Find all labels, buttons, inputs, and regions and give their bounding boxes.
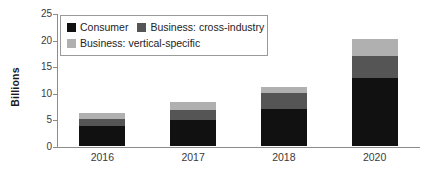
bar-segment-2020-business-cross-industry bbox=[352, 56, 398, 78]
bar-2020 bbox=[352, 39, 398, 146]
y-axis-title-text: Billions bbox=[9, 67, 21, 107]
bar-2016 bbox=[79, 113, 125, 146]
bar-segment-2016-consumer bbox=[79, 126, 125, 146]
stacked-bar-chart: Billions 0510152025 2016201720182020 Con… bbox=[0, 0, 430, 174]
legend-row-1: Consumer Business: cross-industry bbox=[67, 20, 261, 34]
y-tick-mark bbox=[53, 94, 57, 95]
legend-swatch-business-cross-industry bbox=[137, 23, 146, 32]
legend-swatch-business-vertical-specific bbox=[67, 39, 76, 48]
legend-item-business-cross-industry: Business: cross-industry bbox=[137, 20, 264, 34]
legend-item-consumer: Consumer bbox=[67, 20, 128, 34]
x-tick-label-2017: 2017 bbox=[181, 151, 204, 163]
y-tick-mark bbox=[53, 41, 57, 42]
y-tick-label: 20 bbox=[30, 34, 52, 47]
y-tick-mark bbox=[53, 14, 57, 15]
bar-2018 bbox=[261, 87, 307, 146]
y-tick-label: 10 bbox=[30, 87, 52, 100]
y-tick-label: 15 bbox=[30, 60, 52, 73]
bar-segment-2018-consumer bbox=[261, 109, 307, 146]
x-tick-label-2016: 2016 bbox=[91, 151, 114, 163]
x-axis-line bbox=[57, 147, 420, 148]
y-tick-mark bbox=[53, 147, 57, 148]
legend-swatch-consumer bbox=[67, 23, 76, 32]
y-tick-label: 0 bbox=[30, 140, 52, 153]
bar-segment-2020-consumer bbox=[352, 78, 398, 146]
bar-segment-2020-business-vertical-specific bbox=[352, 39, 398, 56]
chart-legend: Consumer Business: cross-industry Busine… bbox=[60, 15, 268, 56]
y-tick-mark bbox=[53, 67, 57, 68]
legend-item-business-vertical-specific: Business: vertical-specific bbox=[67, 36, 200, 50]
legend-label-consumer: Consumer bbox=[80, 20, 128, 34]
legend-row-2: Business: vertical-specific bbox=[67, 36, 261, 50]
y-tick-mark bbox=[53, 120, 57, 121]
y-tick-label: 5 bbox=[30, 113, 52, 126]
bar-2017 bbox=[170, 102, 216, 146]
y-tick-label: 25 bbox=[30, 7, 52, 20]
y-axis-line bbox=[57, 14, 58, 148]
x-tick-label-2020: 2020 bbox=[363, 151, 386, 163]
bar-segment-2016-business-cross-industry bbox=[79, 119, 125, 126]
legend-label-business-vertical-specific: Business: vertical-specific bbox=[80, 36, 200, 50]
bar-segment-2018-business-cross-industry bbox=[261, 93, 307, 109]
y-axis-title: Billions bbox=[6, 0, 24, 174]
x-tick-label-2018: 2018 bbox=[272, 151, 295, 163]
legend-label-business-cross-industry: Business: cross-industry bbox=[150, 20, 264, 34]
bar-segment-2017-business-cross-industry bbox=[170, 110, 216, 120]
bar-segment-2017-consumer bbox=[170, 120, 216, 146]
bar-segment-2017-business-vertical-specific bbox=[170, 102, 216, 110]
